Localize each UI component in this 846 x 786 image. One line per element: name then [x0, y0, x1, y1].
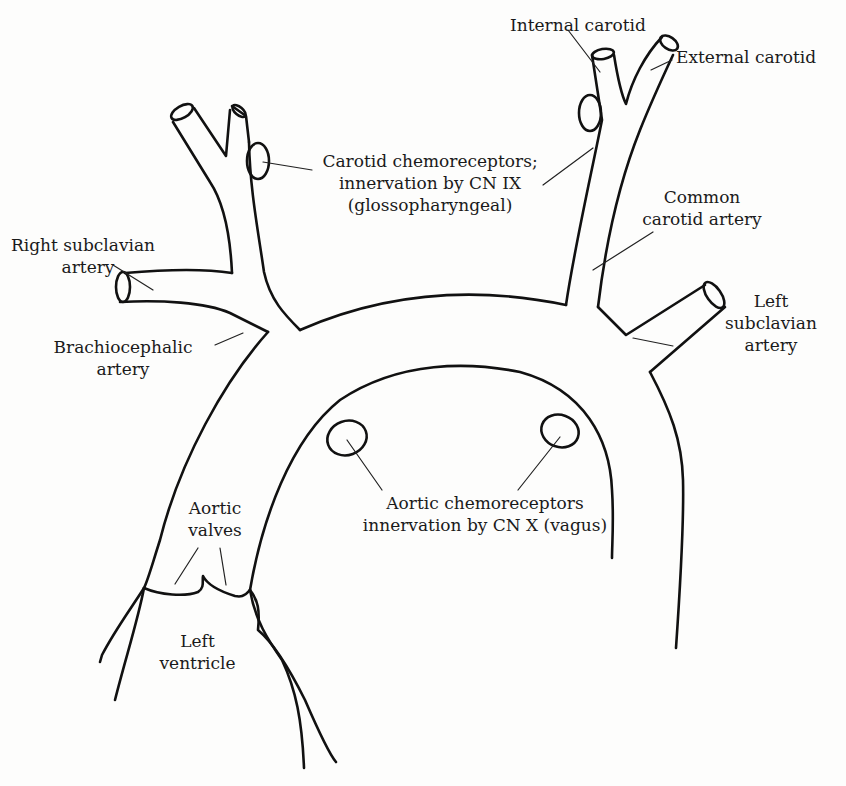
- label-carotid-chemoreceptors: Carotid chemoreceptors; innervation by C…: [310, 150, 550, 216]
- label-right-subclavian-artery: Right subclavian artery: [8, 234, 158, 278]
- aortic-body-left-icon: [322, 415, 371, 461]
- brachiocephalic-branches: [116, 101, 300, 332]
- aortic-arch-top: [300, 295, 566, 330]
- aortic-body-right-icon: [537, 409, 584, 452]
- left-ventricle-walls: [100, 588, 336, 768]
- label-external-carotid: External carotid: [676, 46, 816, 68]
- label-internal-carotid: Internal carotid: [510, 14, 646, 36]
- label-common-carotid-artery: Common carotid artery: [622, 186, 782, 230]
- left-carotid-body-icon: [579, 95, 601, 131]
- label-aortic-valves: Aortic valves: [180, 497, 250, 541]
- label-brachiocephalic-artery: Brachiocephalic artery: [28, 336, 218, 380]
- aortic-valves: [144, 576, 250, 596]
- label-left-subclavian-artery: Left subclavian artery: [716, 290, 826, 356]
- aortic-arch-diagram: [0, 0, 846, 786]
- label-aortic-chemoreceptors: Aortic chemoreceptors innervation by CN …: [360, 492, 610, 536]
- left-carotid-branches: [566, 32, 705, 335]
- aortic-chemoreceptors: [322, 409, 583, 460]
- label-left-ventricle: Left ventricle: [150, 630, 245, 674]
